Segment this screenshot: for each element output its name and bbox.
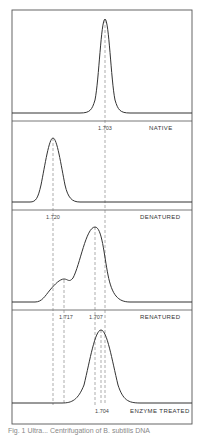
density-label-1717: 1.717 [59, 314, 73, 320]
density-label-1720: 1.720 [46, 214, 60, 220]
panel-label-renatured: RENATURED [140, 314, 181, 320]
curve-renatured [12, 227, 192, 302]
density-label-1703-top: 1.703 [98, 125, 112, 131]
panel-label-native: NATIVE [149, 125, 173, 131]
panel-label-enzyme-treated: ENZYME TREATED [130, 408, 190, 414]
figure-caption: Fig. 1 Ultra... Centrifugation of B. sub… [8, 427, 150, 434]
curve-native [12, 19, 192, 113]
panel-label-denatured: DENATURED [140, 214, 181, 220]
curve-denatured [12, 138, 192, 202]
density-label-1704: 1.704 [95, 408, 109, 414]
curve-enzyme [12, 330, 192, 403]
reference-lines [53, 20, 105, 405]
density-label-1707: 1.707 [89, 314, 103, 320]
